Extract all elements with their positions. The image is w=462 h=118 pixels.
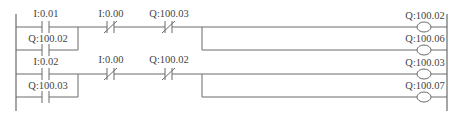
contact-label: Q:100.03 xyxy=(149,8,188,19)
no-contact-icon xyxy=(42,91,49,103)
contact-label: I:0.01 xyxy=(34,8,59,19)
coil-icon xyxy=(417,69,431,79)
contact-label: I:0.00 xyxy=(99,8,124,19)
coil-icon xyxy=(417,92,431,102)
contact-label: Q:100.02 xyxy=(28,33,67,44)
contact-label: Q:100.02 xyxy=(149,54,188,65)
contact-label: Q:100.03 xyxy=(28,80,67,91)
rung-1: I:0.01 Q:100.02 I:0.00 Q:100.03 xyxy=(16,8,447,56)
coil-label: Q:100.03 xyxy=(405,57,444,68)
coil-icon xyxy=(417,45,431,55)
rung-2: I:0.02 Q:100.03 I:0.00 Q:100.02 Q:100.03 xyxy=(16,54,447,103)
contact-label: I:0.02 xyxy=(34,56,59,67)
coil-label: Q:100.06 xyxy=(405,33,444,44)
no-contact-icon xyxy=(42,21,49,33)
coil-label: Q:100.02 xyxy=(405,10,444,21)
coil-icon xyxy=(417,22,431,32)
no-contact-icon xyxy=(42,44,49,56)
no-contact-icon xyxy=(42,68,49,80)
contact-label: I:0.00 xyxy=(99,54,124,65)
ladder-diagram: I:0.01 Q:100.02 I:0.00 Q:100.03 xyxy=(0,0,462,118)
coil-label: Q:100.07 xyxy=(405,80,444,91)
